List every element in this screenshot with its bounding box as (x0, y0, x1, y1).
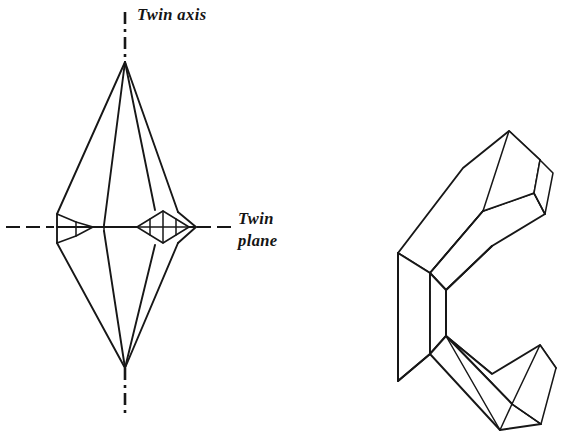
figure-root: Twin axis Twin plane (0, 0, 565, 442)
left-crystal (57, 62, 196, 368)
body-left-face (398, 253, 430, 381)
right-crystal (398, 131, 556, 430)
figure-canvas: Twin axis Twin plane (0, 0, 565, 442)
twin-axis-label: Twin axis (137, 5, 206, 24)
waist-left-facet-ridge (76, 222, 93, 236)
waist-left-facet (57, 214, 76, 243)
twin-plane-label-line1: Twin (238, 209, 274, 228)
twin-plane-label-line2: plane (236, 231, 278, 250)
